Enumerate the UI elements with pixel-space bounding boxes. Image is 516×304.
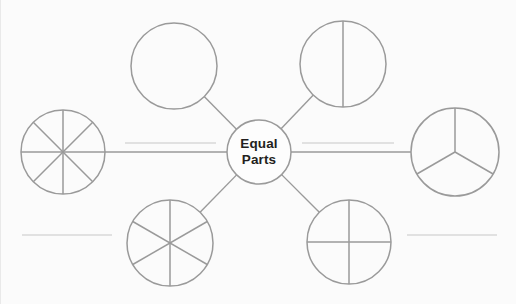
diagram-graphics bbox=[0, 0, 516, 304]
spoke-line-halves-circle bbox=[281, 95, 313, 129]
whole-circle-outline bbox=[131, 23, 217, 109]
sixths-circle[interactable] bbox=[127, 200, 213, 286]
thirds-circle[interactable] bbox=[411, 108, 499, 196]
thirds-circle-divider-3 bbox=[417, 152, 455, 174]
whole-circle[interactable] bbox=[131, 23, 217, 109]
quarters-circle[interactable] bbox=[307, 200, 391, 284]
thirds-circle-divider-2 bbox=[455, 152, 493, 174]
spoke-line-quarters-circle bbox=[282, 175, 320, 213]
diagram-canvas: Equal Parts bbox=[0, 0, 516, 304]
hub-circle[interactable] bbox=[227, 120, 291, 184]
eighths-circle[interactable] bbox=[21, 110, 105, 194]
spoke-line-whole-circle bbox=[204, 97, 236, 130]
halves-circle[interactable] bbox=[300, 21, 386, 107]
spoke-line-sixths-circle bbox=[200, 175, 237, 212]
hub-circle-group bbox=[227, 120, 291, 184]
